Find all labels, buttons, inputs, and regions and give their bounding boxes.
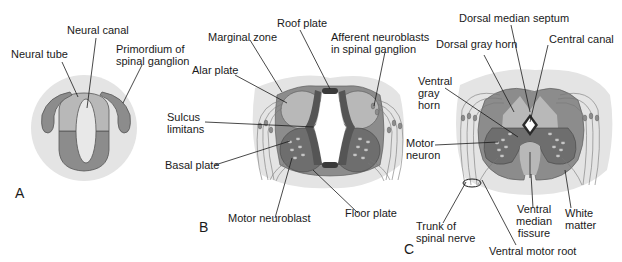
label-ventral-motor-root: Ventral motor root — [489, 245, 576, 257]
label-neural-canal: Neural canal — [67, 24, 129, 36]
label-floor-plate: Floor plate — [345, 207, 397, 219]
label-ventral-gray-horn: Ventral gray horn — [418, 75, 452, 111]
label-basal-plate: Basal plate — [165, 159, 219, 171]
panel-b-developing-cord — [205, 30, 404, 218]
label-alar-plate: Alar plate — [192, 64, 238, 76]
label-motor-neuron: Motor neuron — [406, 137, 440, 161]
label-line: White — [565, 207, 596, 219]
label-ventral-median-fissure: Ventral median fissure — [516, 203, 552, 239]
label-line: Sulcus — [167, 111, 204, 123]
label-line: spinal ganglion — [116, 55, 189, 67]
label-neural-tube: Neural tube — [11, 48, 68, 60]
label-line: Ventral — [418, 75, 452, 87]
label-line: limitans — [167, 123, 204, 135]
label-line: gray — [418, 87, 452, 99]
panel-letter-b: B — [199, 219, 208, 235]
label-dorsal-median-septum: Dorsal median septum — [459, 12, 569, 24]
label-line: neuron — [406, 149, 440, 161]
label-line: Afferent neuroblasts — [331, 31, 429, 43]
label-primordium-spinal-ganglion: Primordium of spinal ganglion — [116, 43, 189, 67]
label-line: matter — [565, 219, 596, 231]
label-line: median — [516, 215, 552, 227]
panel-letter-a: A — [15, 185, 24, 201]
label-white-matter: White matter — [565, 207, 596, 231]
label-roof-plate: Roof plate — [277, 17, 327, 29]
label-central-canal: Central canal — [549, 33, 614, 45]
label-line: Primordium of — [116, 43, 189, 55]
label-sulcus-limitans: Sulcus limitans — [167, 111, 204, 135]
label-motor-neuroblast: Motor neuroblast — [228, 212, 311, 224]
label-dorsal-gray-horn: Dorsal gray horn — [436, 38, 517, 50]
label-line: Ventral — [516, 203, 552, 215]
label-afferent-neuroblasts: Afferent neuroblasts in spinal ganglion — [331, 31, 429, 55]
label-line: spinal nerve — [416, 232, 475, 244]
label-line: horn — [418, 99, 452, 111]
label-line: Motor — [406, 137, 440, 149]
label-trunk-spinal-nerve: Trunk of spinal nerve — [416, 220, 475, 244]
panel-letter-c: C — [404, 241, 414, 257]
label-line: in spinal ganglion — [331, 43, 429, 55]
label-marginal-zone: Marginal zone — [208, 31, 277, 43]
label-line: Trunk of — [416, 220, 475, 232]
label-line: fissure — [516, 227, 552, 239]
